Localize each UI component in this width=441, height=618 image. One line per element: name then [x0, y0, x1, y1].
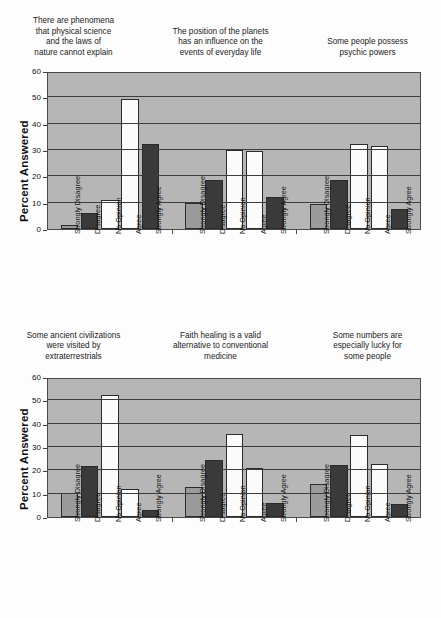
y-tick-30: [43, 151, 47, 152]
gridline-30: [48, 446, 420, 447]
y-tick-label-20: 20: [17, 466, 41, 475]
group-separator-1: [172, 518, 173, 522]
title-line: alternative to conventional: [149, 341, 292, 351]
x-label-2-1: Strongly Disagree: [198, 464, 207, 522]
y-tick-50: [43, 98, 47, 99]
title-line: events of everyday life: [149, 48, 292, 58]
title-line: extraterrestrials: [2, 352, 145, 362]
x-label-1-4: Agree: [134, 503, 143, 522]
title-line: Faith healing is a valid: [149, 331, 292, 341]
x-label-3-4: Agree: [383, 215, 392, 234]
y-tick-20: [43, 471, 47, 472]
chart-panel-bottom: Some ancient civilizationswere visited b…: [0, 310, 441, 618]
x-label-2-3: No Opinion: [238, 197, 247, 234]
question-title-2: The position of the planetshas an influe…: [147, 27, 294, 58]
y-tick-10: [43, 204, 47, 205]
y-tick-30: [43, 448, 47, 449]
x-label-3-3: No Opinion: [363, 197, 372, 234]
x-label-2-4: Agree: [259, 503, 268, 522]
title-line: especially lucky for: [296, 341, 439, 351]
y-tick-10: [43, 495, 47, 496]
x-label-1-2: Disagree: [93, 205, 102, 234]
gridline-40: [48, 423, 420, 424]
x-label-1-5: Strongly Agree: [154, 186, 163, 234]
title-line: nature cannot explain: [2, 48, 145, 58]
title-line: some people: [296, 352, 439, 362]
chart-panel-top: There are phenomenathat physical science…: [0, 0, 441, 310]
panel-bottom-titles: Some ancient civilizationswere visited b…: [0, 326, 441, 362]
x-label-2-2: Disagree: [218, 205, 227, 234]
x-label-1-5: Strongly Agree: [154, 474, 163, 522]
gridline-20: [48, 175, 420, 176]
y-tick-label-30: 30: [17, 146, 41, 155]
x-label-1-2: Disagree: [93, 493, 102, 522]
x-label-3-1: Strongly Disagree: [322, 176, 331, 234]
x-label-3-5: Strongly Agree: [404, 186, 413, 234]
x-label-3-5: Strongly Agree: [404, 474, 413, 522]
gridline-50: [48, 96, 420, 97]
title-line: were visited by: [2, 341, 145, 351]
y-tick-label-30: 30: [17, 443, 41, 452]
question-title-3: Some numbers areespecially lucky forsome…: [294, 331, 441, 362]
x-label-1-1: Strongly Disagree: [73, 464, 82, 522]
y-tick-label-60: 60: [17, 67, 41, 76]
title-line: that physical science: [2, 27, 145, 37]
gridline-20: [48, 469, 420, 470]
question-title-2: Faith healing is a validalternative to c…: [147, 331, 294, 362]
title-line: The position of the planets: [149, 27, 292, 37]
x-label-1-3: No Opinion: [114, 485, 123, 522]
y-tick-40: [43, 425, 47, 426]
y-tick-label-0: 0: [17, 225, 41, 234]
panel-top-titles: There are phenomenathat physical science…: [0, 12, 441, 58]
x-label-2-3: No Opinion: [238, 485, 247, 522]
x-label-2-5: Strongly Agree: [279, 474, 288, 522]
title-line: Some numbers are: [296, 331, 439, 341]
bar-1-4: [121, 99, 138, 229]
x-label-3-2: Disagree: [343, 205, 352, 234]
y-tick-0: [43, 518, 47, 519]
y-tick-label-10: 10: [17, 199, 41, 208]
y-tick-label-50: 50: [17, 396, 41, 405]
title-line: psychic powers: [296, 48, 439, 58]
title-line: and the laws of: [2, 37, 145, 47]
x-label-3-3: No Opinion: [363, 485, 372, 522]
title-line: has an influence on the: [149, 37, 292, 47]
x-label-3-1: Strongly Disagree: [322, 464, 331, 522]
x-label-2-5: Strongly Agree: [279, 186, 288, 234]
group-separator-1: [172, 230, 173, 234]
x-label-1-3: No Opinion: [114, 197, 123, 234]
gridline-40: [48, 123, 420, 124]
x-label-1-1: Strongly Disagree: [73, 176, 82, 234]
y-tick-50: [43, 401, 47, 402]
y-tick-40: [43, 125, 47, 126]
x-label-2-4: Agree: [259, 215, 268, 234]
y-tick-label-40: 40: [17, 420, 41, 429]
y-tick-label-50: 50: [17, 93, 41, 102]
y-tick-label-0: 0: [17, 513, 41, 522]
x-label-2-2: Disagree: [218, 493, 227, 522]
title-line: Some ancient civilizations: [2, 331, 145, 341]
x-label-3-2: Disagree: [343, 493, 352, 522]
figure-container: There are phenomenathat physical science…: [0, 0, 441, 618]
question-title-3: Some people possesspsychic powers: [294, 37, 441, 58]
y-tick-0: [43, 230, 47, 231]
y-tick-60: [43, 378, 47, 379]
group-separator-2: [296, 518, 297, 522]
y-tick-label-40: 40: [17, 120, 41, 129]
x-label-1-4: Agree: [134, 215, 143, 234]
title-line: Some people possess: [296, 37, 439, 47]
y-tick-label-10: 10: [17, 490, 41, 499]
group-separator-2: [296, 230, 297, 234]
x-label-2-1: Strongly Disagree: [198, 176, 207, 234]
question-title-1: There are phenomenathat physical science…: [0, 16, 147, 58]
gridline-50: [48, 399, 420, 400]
gridline-30: [48, 149, 420, 150]
y-tick-20: [43, 177, 47, 178]
x-label-3-4: Agree: [383, 503, 392, 522]
y-tick-label-20: 20: [17, 172, 41, 181]
question-title-1: Some ancient civilizationswere visited b…: [0, 331, 147, 362]
title-line: There are phenomena: [2, 16, 145, 26]
title-line: medicine: [149, 352, 292, 362]
y-tick-label-60: 60: [17, 373, 41, 382]
y-tick-60: [43, 72, 47, 73]
